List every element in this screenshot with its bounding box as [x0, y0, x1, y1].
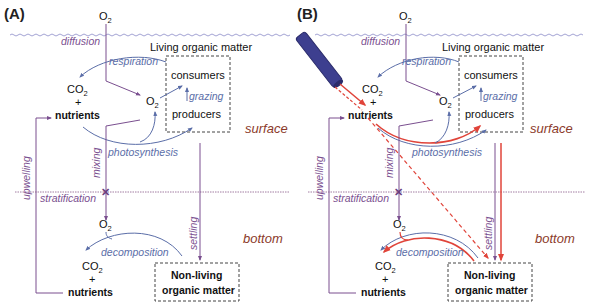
zone-surface: surface: [530, 121, 573, 136]
label-diffusion: diffusion: [61, 35, 100, 47]
upwelling-arrow: [36, 118, 63, 293]
non-living-line2: organic matter: [162, 284, 235, 296]
label-photosynthesis: photosynthesis: [107, 146, 179, 158]
photosynthesis-to-o2-arrow: [140, 112, 155, 142]
zone-surface: surface: [245, 121, 288, 136]
non-living-line2: organic matter: [455, 284, 528, 296]
non-living-line1: Non-living: [171, 269, 222, 281]
blocked-mixing-x-icon: ✕: [394, 186, 403, 198]
o2-surface-water: O2: [146, 95, 159, 110]
o2-atmosphere: O2: [99, 10, 112, 25]
mixing-arrow: [399, 120, 433, 220]
label-upwelling: upwelling: [313, 156, 325, 200]
label-diffusion: diffusion: [361, 35, 400, 47]
label-grazing: grazing: [483, 90, 518, 102]
label-grazing: grazing: [189, 90, 224, 102]
plus-surface: +: [75, 96, 81, 108]
producers-label: producers: [465, 108, 514, 120]
panel-label-a: (A): [4, 5, 25, 22]
plus-surface: +: [370, 96, 376, 108]
photosynthesis-arrow: [83, 127, 192, 144]
zone-bottom: bottom: [535, 231, 575, 246]
nutrients-surface: nutrients: [55, 109, 100, 121]
enhanced-photosynthesis-arrow: [376, 124, 480, 143]
o2-bottom-water: O2: [99, 218, 112, 233]
label-upwelling: upwelling: [20, 156, 32, 200]
water-surface-line: [315, 34, 583, 36]
label-settling: settling: [482, 217, 494, 250]
nutrients-bottom: nutrients: [361, 286, 406, 298]
label-mixing: mixing: [383, 147, 395, 178]
living-organic-matter-title: Living organic matter: [442, 41, 544, 53]
label-photosynthesis: photosynthesis: [411, 146, 483, 158]
blocked-mixing-x-icon: ✕: [101, 186, 110, 198]
o2-to-consumers-arrow: [453, 86, 476, 98]
o2-surface-water: O2: [439, 95, 452, 110]
o2-bottom-water: O2: [393, 218, 406, 233]
label-decomposition: decomposition: [396, 246, 464, 258]
label-stratification: stratification: [333, 192, 389, 204]
mixing-arrow: [106, 120, 140, 220]
label-stratification: stratification: [40, 192, 96, 204]
zone-bottom: bottom: [243, 231, 283, 246]
label-decomposition: decomposition: [101, 246, 169, 258]
nutrients-bottom: nutrients: [68, 286, 113, 298]
water-surface-line: [10, 34, 290, 36]
o2-to-consumers-arrow: [160, 86, 182, 98]
panel-label-b: (B): [297, 5, 318, 22]
producers-label: producers: [172, 108, 221, 120]
living-organic-matter-title: Living organic matter: [150, 41, 252, 53]
plus-bottom: +: [382, 273, 388, 285]
nutrients-surface: nutrients: [348, 109, 393, 121]
upwelling-arrow: [329, 118, 356, 293]
plus-bottom: +: [89, 273, 95, 285]
label-mixing: mixing: [90, 147, 102, 178]
panel-a: (A) O2 diffusion Living organic matter c…: [4, 5, 290, 301]
label-respiration: respiration: [402, 55, 451, 67]
eutrophication-diagram: (A) O2 diffusion Living organic matter c…: [0, 0, 589, 305]
non-living-line1: Non-living: [464, 269, 515, 281]
consumers-label: consumers: [464, 69, 518, 81]
photosynthesis-to-o2-arrow: [435, 112, 449, 143]
o2-atmosphere: O2: [399, 10, 412, 25]
label-settling: settling: [187, 217, 199, 250]
consumers-label: consumers: [171, 69, 225, 81]
label-respiration: respiration: [109, 55, 158, 67]
panel-b: (B) O2 diffusion Living organic matter c…: [295, 5, 585, 301]
discharge-pipe-icon: [295, 31, 344, 89]
